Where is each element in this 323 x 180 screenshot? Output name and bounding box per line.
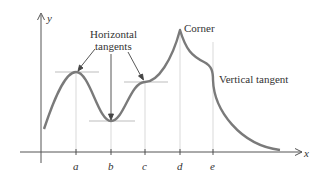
diagram: y x a b c d e Horizontal tangents Corner… <box>0 0 323 180</box>
diagram-graphics <box>0 0 323 180</box>
tick-label-a: a <box>73 160 79 172</box>
annotation-vertical-tangent: Vertical tangent <box>219 73 288 85</box>
annotation-corner: Corner <box>184 22 215 34</box>
tick-label-e: e <box>210 160 215 172</box>
x-axis-label: x <box>304 147 309 159</box>
y-axis-label: y <box>47 12 52 24</box>
annotation-horizontal-line1: Horizontal <box>90 28 137 40</box>
tick-label-b: b <box>108 160 114 172</box>
tick-label-d: d <box>177 160 183 172</box>
annotation-horizontal-line2: tangents <box>95 40 132 52</box>
tick-label-c: c <box>142 160 147 172</box>
function-curve <box>44 30 280 150</box>
axes <box>20 13 302 163</box>
